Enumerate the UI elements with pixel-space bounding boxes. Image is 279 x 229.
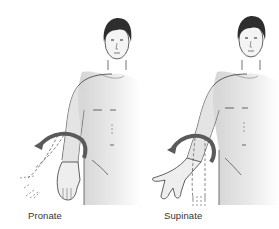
- hand-icon: [153, 158, 201, 199]
- pronate-panel: Pronate: [0, 0, 140, 229]
- supinate-panel: Supinate: [139, 0, 279, 229]
- hand-icon: [57, 162, 80, 200]
- pronate-figure: [0, 0, 140, 229]
- pronate-label: Pronate: [28, 210, 62, 221]
- supinate-figure: [139, 0, 279, 229]
- supinate-label: Supinate: [164, 210, 202, 221]
